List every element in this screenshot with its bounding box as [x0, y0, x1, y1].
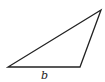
triangle-figure: b — [0, 0, 105, 82]
triangle-shape — [8, 10, 101, 67]
base-label: b — [41, 69, 48, 82]
triangle-diagram: b — [0, 0, 105, 82]
